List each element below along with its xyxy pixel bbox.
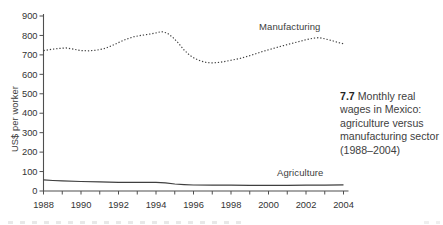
series-line-manufacturing xyxy=(44,32,344,63)
figure-caption-text: Monthly real wages in Mexico: agricultur… xyxy=(340,90,439,156)
manufacturing-series-label: Manufacturing xyxy=(259,21,321,32)
x-tick-label: 2004 xyxy=(333,200,354,210)
x-tick-label: 1996 xyxy=(183,200,204,210)
cropped-text-remnant xyxy=(8,221,246,224)
agriculture-series-label: Agriculture xyxy=(277,167,324,178)
y-tick-label: 600 xyxy=(22,70,38,80)
axes xyxy=(44,14,349,191)
x-tick-label: 1988 xyxy=(33,200,54,210)
figure-7-7: 0100200300400500600700800900198819901992… xyxy=(0,0,443,225)
x-tick-label: 1994 xyxy=(146,200,167,210)
figure-caption: 7.7 Monthly real wages in Mexico: agricu… xyxy=(340,90,443,157)
x-tick-label: 1990 xyxy=(71,200,92,210)
cropped-text-remnant xyxy=(424,221,440,224)
figure-caption-number: 7.7 xyxy=(340,90,355,102)
y-tick-label: 700 xyxy=(22,50,38,60)
y-tick-label: 900 xyxy=(22,11,38,21)
y-tick-label: 400 xyxy=(22,108,38,118)
y-axis-label: US$ per worker xyxy=(10,86,20,152)
x-tick-label: 1998 xyxy=(221,200,242,210)
y-tick-label: 800 xyxy=(22,31,38,41)
x-tick-label: 2000 xyxy=(258,200,279,210)
x-tick-label: 1992 xyxy=(108,200,129,210)
y-tick-label: 200 xyxy=(22,147,38,157)
y-tick-label: 0 xyxy=(32,186,37,196)
y-tick-label: 100 xyxy=(22,167,38,177)
x-tick-label: 2002 xyxy=(296,200,317,210)
y-tick-label: 500 xyxy=(22,89,38,99)
series-line-agriculture xyxy=(44,180,344,186)
y-tick-label: 300 xyxy=(22,128,38,138)
